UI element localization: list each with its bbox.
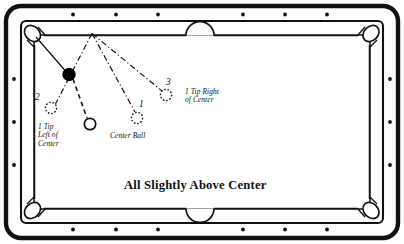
label-center-ball: Center Ball — [110, 132, 145, 140]
billiard-table-svg — [0, 0, 404, 244]
ghost-ball-1 — [131, 112, 142, 123]
diamond-top-4 — [241, 13, 245, 17]
billiard-diagram-root: 1 2 3 1 Tip Left of Center Center Ball 1… — [0, 0, 404, 244]
object-ball — [63, 68, 75, 80]
ghost-ball-2-number: 2 — [35, 92, 40, 102]
diamond-right-3 — [388, 163, 392, 167]
diamond-left-1 — [12, 77, 16, 81]
diamond-right-2 — [388, 120, 392, 124]
diagram-caption: All Slightly Above Center — [124, 178, 266, 193]
diamond-top-6 — [325, 13, 329, 17]
diamond-bottom-4 — [241, 228, 245, 232]
diamond-bottom-2 — [114, 228, 118, 232]
diamond-bottom-1 — [71, 228, 75, 232]
label-one-tip-right-of-center: 1 Tip Right of Center — [185, 88, 219, 105]
diamond-left-2 — [12, 120, 16, 124]
diamond-top-3 — [156, 13, 160, 17]
ghost-ball-1-number: 1 — [139, 99, 144, 109]
ghost-ball-2 — [45, 102, 56, 113]
diamond-top-5 — [283, 13, 287, 17]
diamond-bottom-6 — [325, 228, 329, 232]
cue-ball — [84, 118, 95, 129]
diamond-top-2 — [114, 13, 118, 17]
diamond-bottom-3 — [156, 228, 160, 232]
ghost-ball-3 — [160, 89, 171, 100]
diamond-bottom-5 — [283, 228, 287, 232]
diamond-right-1 — [388, 77, 392, 81]
ghost-ball-3-number: 3 — [166, 77, 171, 87]
diamond-left-3 — [12, 163, 16, 167]
diamond-top-1 — [71, 13, 75, 17]
label-one-tip-left-of-center: 1 Tip Left of Center — [38, 123, 59, 148]
